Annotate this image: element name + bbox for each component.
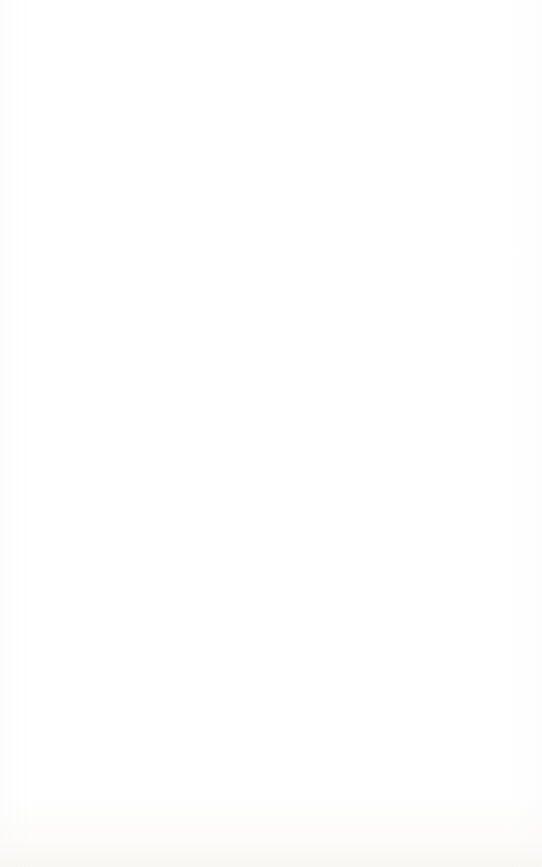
notepad-page (0, 0, 542, 867)
ruled-lines-layer (0, 0, 542, 867)
